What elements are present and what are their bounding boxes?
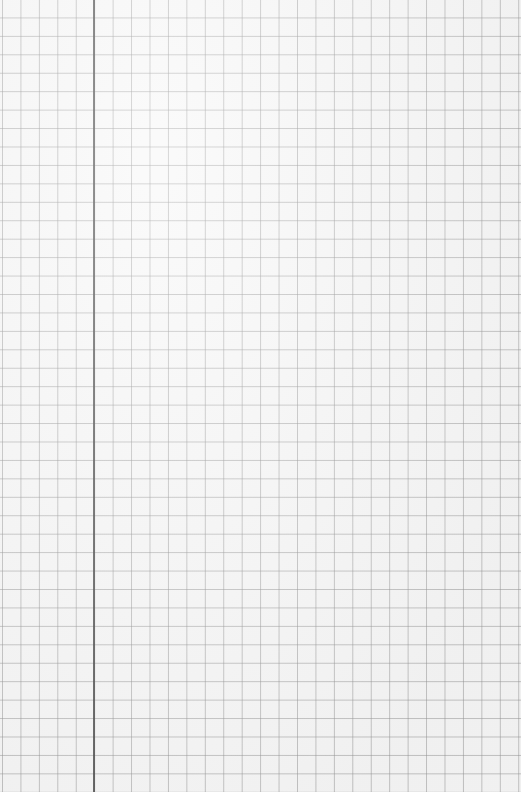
graph-paper-sheet: Blank graph paper sheet [0,0,521,792]
sheet-description: Blank graph paper sheet [0,0,1,1]
margin-line [93,0,95,792]
